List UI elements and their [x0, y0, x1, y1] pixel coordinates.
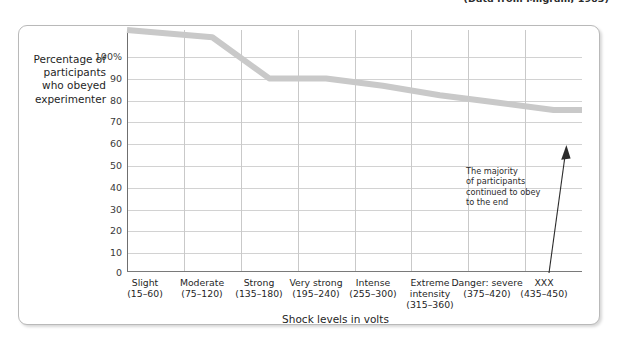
y-tick-label: 40 [86, 183, 122, 193]
annotation-arrow-icon [528, 140, 584, 280]
x-tick-range: (435–450) [507, 288, 581, 299]
y-tick-label: 50 [86, 161, 122, 171]
plot-area [127, 30, 582, 272]
obedience-series [127, 30, 582, 272]
x-axis-title: Shock levels in volts [0, 313, 619, 325]
y-tick-label: 80 [86, 96, 122, 106]
x-axis-title-text: Shock levels in volts [282, 313, 389, 325]
x-tick-range: (315–360) [393, 299, 467, 310]
y-tick-label: 30 [86, 205, 122, 215]
y-tick-label: 70 [86, 117, 122, 127]
x-tick-label-xxx: XXX (435–450) [507, 277, 581, 299]
y-tick-label: 100% [86, 52, 122, 62]
y-tick-label: 20 [86, 226, 122, 236]
y-tick-label: 10 [86, 248, 122, 258]
chart-figure: Percentage of participants who obeyed ex… [0, 0, 619, 339]
y-tick-label: 90 [86, 74, 122, 84]
y-tick-label: 60 [86, 139, 122, 149]
